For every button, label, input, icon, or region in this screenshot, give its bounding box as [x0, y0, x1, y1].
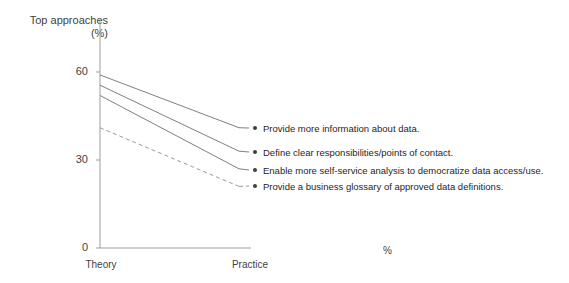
series-line-3	[100, 95, 239, 168]
series-endpoint-dot-1	[253, 126, 257, 130]
series-label-3: Enable more self-service analysis to dem…	[263, 165, 543, 176]
series-leader-3	[239, 169, 249, 170]
series-line-4	[100, 128, 239, 187]
series-lines-group	[100, 75, 239, 186]
series-leader-group	[239, 128, 249, 187]
series-label-2: Define clear responsibilities/points of …	[263, 147, 453, 158]
series-label-1: Provide more information about data.	[263, 123, 419, 134]
series-line-1	[100, 75, 239, 128]
series-endpoint-dot-2	[253, 150, 257, 154]
series-label-4: Provide a business glossary of approved …	[263, 181, 503, 192]
plot-area	[0, 0, 569, 283]
series-line-2	[100, 85, 239, 151]
series-leader-2	[239, 151, 249, 152]
series-endpoint-dots-group	[253, 126, 257, 188]
series-endpoint-dot-3	[253, 168, 257, 172]
series-endpoint-dot-4	[253, 184, 257, 188]
chart-container: Top approaches (%) 60 30 0 Theory Practi…	[0, 0, 569, 283]
